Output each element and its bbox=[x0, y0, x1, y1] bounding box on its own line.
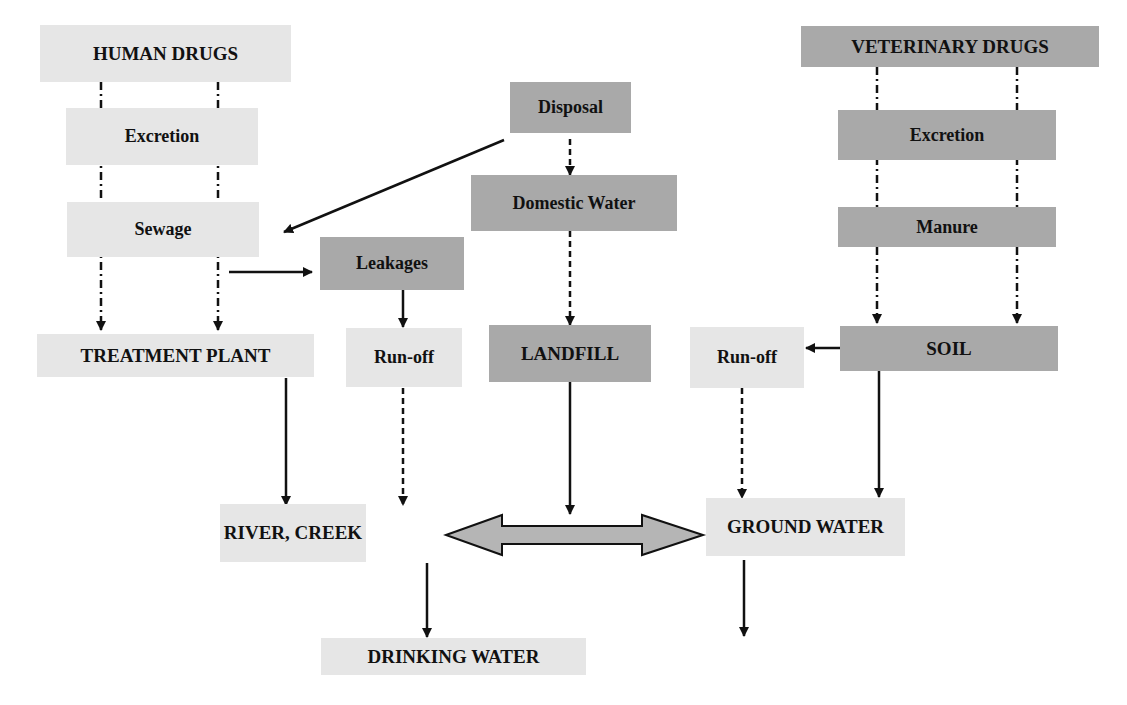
node-disposal: Disposal bbox=[510, 82, 631, 133]
node-domestic-water: Domestic Water bbox=[471, 175, 677, 231]
node-human-drugs: HUMAN DRUGS bbox=[40, 25, 291, 82]
node-treatment-plant: TREATMENT PLANT bbox=[37, 334, 314, 377]
node-runoff-left: Run-off bbox=[346, 328, 462, 387]
river-groundwater-exchange-arrow bbox=[446, 515, 703, 555]
node-vet-excretion: Excretion bbox=[838, 110, 1056, 160]
node-sewage: Sewage bbox=[67, 202, 259, 257]
node-human-excretion: Excretion bbox=[66, 108, 258, 165]
node-veterinary-drugs: VETERINARY DRUGS bbox=[801, 26, 1099, 67]
node-soil: SOIL bbox=[840, 326, 1058, 371]
node-ground-water: GROUND WATER bbox=[706, 498, 905, 556]
node-drinking-water: DRINKING WATER bbox=[321, 638, 586, 675]
node-runoff-right: Run-off bbox=[690, 327, 804, 388]
node-manure: Manure bbox=[838, 207, 1056, 247]
node-leakages: Leakages bbox=[320, 237, 464, 290]
vet-drugs-to-soil-edges bbox=[877, 67, 1017, 323]
node-landfill: LANDFILL bbox=[489, 325, 651, 382]
node-river-creek: RIVER, CREEK bbox=[220, 504, 366, 562]
